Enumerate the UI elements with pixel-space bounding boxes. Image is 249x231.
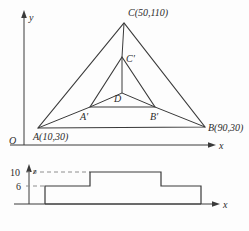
geometry-figure: C(50,110) A(10,30) B(90,30) C′ A′ B′ D y… bbox=[0, 0, 249, 231]
z-axis-label: z bbox=[32, 166, 37, 176]
x-axis-label-side: x bbox=[222, 199, 228, 210]
x-axis-label-top: x bbox=[218, 140, 224, 151]
side-view-group: 10 6 z x bbox=[10, 164, 228, 210]
z-axis bbox=[26, 164, 32, 204]
centroid-label-D: D bbox=[113, 93, 122, 104]
origin-label: O bbox=[9, 135, 16, 146]
vertex-label-C-prime: C′ bbox=[126, 53, 136, 64]
vertex-label-B-prime: B′ bbox=[150, 111, 159, 122]
vertex-label-A-prime: A′ bbox=[79, 111, 89, 122]
y-axis-label: y bbox=[28, 12, 34, 23]
stepped-profile bbox=[45, 172, 201, 204]
x-axis bbox=[10, 142, 216, 148]
centroid-median-lines bbox=[90, 57, 155, 107]
tick-label-6: 6 bbox=[16, 181, 21, 192]
vertex-label-A: A(10,30) bbox=[32, 131, 69, 143]
tick-label-10: 10 bbox=[10, 167, 20, 178]
top-view-group: C(50,110) A(10,30) B(90,30) C′ A′ B′ D y… bbox=[9, 7, 244, 151]
vertex-label-C: C(50,110) bbox=[128, 7, 169, 19]
y-axis bbox=[21, 10, 27, 145]
vertex-label-B: B(90,30) bbox=[208, 122, 244, 134]
